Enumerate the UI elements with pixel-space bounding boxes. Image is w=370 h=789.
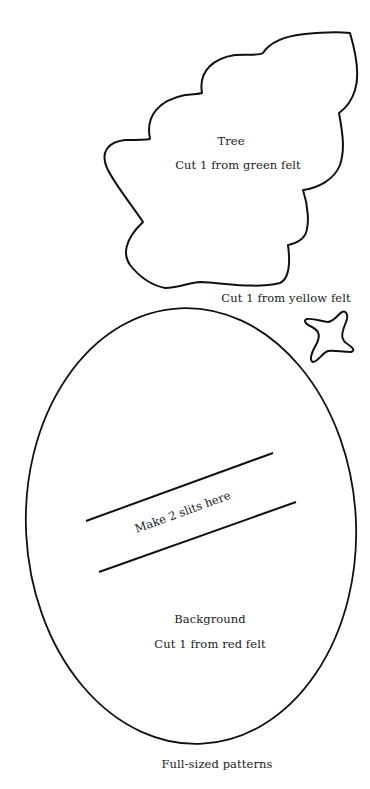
patterns-drawing [0,0,370,789]
background-pattern-outline [15,300,367,753]
figure-caption: Full-sized patterns [161,757,272,771]
background-title: Background [174,612,246,626]
background-instruction: Cut 1 from red felt [154,637,265,651]
star-pattern-outline [305,312,353,362]
star-instruction: Cut 1 from yellow felt [221,291,350,305]
tree-title: Tree [217,134,244,148]
tree-instruction: Cut 1 from green felt [175,158,301,172]
